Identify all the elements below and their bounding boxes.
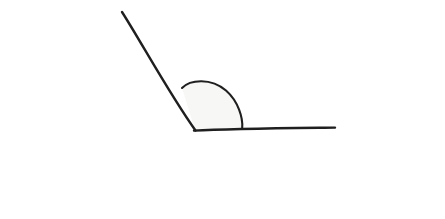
angle-figure-svg: [0, 0, 445, 170]
angle-upper-ray: [122, 12, 196, 131]
answer-options: obtuse acute right angle reflex: [0, 170, 445, 219]
angle-diagram: [0, 0, 445, 170]
angle-quiz-question: obtuse acute right angle reflex: [0, 0, 445, 219]
